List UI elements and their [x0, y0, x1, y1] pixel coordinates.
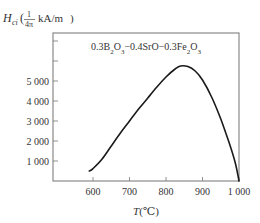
plot-border [53, 33, 239, 181]
x-axis-ticks: 6007008009001 000 [86, 177, 251, 197]
x-tick-label: 700 [122, 186, 137, 197]
y-label-frac-den: 4π [25, 20, 33, 29]
plot-frame [53, 33, 239, 181]
composition-annotation: 0.3B2O3−0.4SrO−0.3Fe2O3 [91, 41, 202, 56]
chart-canvas: H ci ( 1 4π kA/m ) 1 0002 0003 0004 0005… [0, 0, 260, 223]
y-label-paren-close: ) [70, 12, 74, 25]
y-label-subscript: ci [12, 18, 18, 27]
y-label-frac-num: 1 [27, 10, 31, 19]
x-tick-label: 600 [86, 186, 101, 197]
y-tick-label: 4 000 [27, 96, 50, 107]
x-tick-label: 1 000 [228, 186, 251, 197]
y-label-paren-open: ( [20, 11, 24, 25]
y-tick-label: 1 000 [27, 156, 50, 167]
coercivity-curve [89, 66, 239, 181]
x-axis-label: T(℃) [133, 205, 159, 218]
y-tick-label: 3 000 [27, 116, 50, 127]
x-tick-label: 900 [195, 186, 210, 197]
y-axis-label: H ci ( 1 4π kA/m ) [2, 10, 74, 29]
x-tick-label: 800 [159, 186, 174, 197]
y-tick-label: 5 000 [27, 76, 50, 87]
y-label-unit: kA/m [38, 12, 64, 24]
x-label-unit: (℃) [139, 205, 159, 218]
y-tick-label: 2 000 [27, 136, 50, 147]
